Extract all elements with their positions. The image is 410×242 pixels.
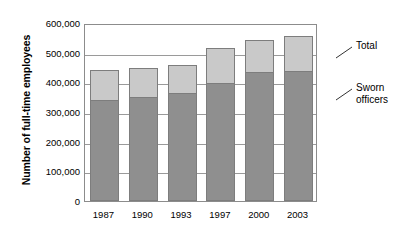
bar-segment-sworn-officers[interactable] <box>206 83 235 201</box>
y-tick-label: 600,000 <box>28 19 80 29</box>
gridline <box>85 55 316 56</box>
bar-segment-total[interactable] <box>245 40 274 73</box>
bar-group[interactable] <box>206 23 235 201</box>
y-tick-label: 500,000 <box>28 49 80 59</box>
bar-segment-total[interactable] <box>284 36 313 72</box>
x-tick-label: 1993 <box>159 210 203 220</box>
gridline <box>85 144 316 145</box>
y-tick-label: 300,000 <box>28 108 80 118</box>
y-tick-label: 200,000 <box>28 138 80 148</box>
x-tick-label: 1987 <box>81 210 125 220</box>
bar-segment-sworn-officers[interactable] <box>168 93 197 201</box>
gridline <box>85 84 316 85</box>
bar-segment-total[interactable] <box>168 65 197 94</box>
bar-segment-sworn-officers[interactable] <box>284 71 313 201</box>
bar-segment-sworn-officers[interactable] <box>245 72 274 201</box>
bar-chart: Number of full-time employees 0100,00020… <box>0 0 410 242</box>
y-tick-label: 400,000 <box>28 78 80 88</box>
bar-group[interactable] <box>168 23 197 201</box>
bar-group[interactable] <box>90 23 119 201</box>
plot-area <box>84 24 317 202</box>
bar-segment-sworn-officers[interactable] <box>129 97 158 201</box>
bar-segment-total[interactable] <box>90 70 119 101</box>
bar-group[interactable] <box>129 23 158 201</box>
callout-label-total: Total <box>356 40 377 52</box>
bar-group[interactable] <box>284 23 313 201</box>
y-tick-label: 100,000 <box>28 167 80 177</box>
x-tick-label: 1990 <box>120 210 164 220</box>
bar-segment-sworn-officers[interactable] <box>90 100 119 201</box>
x-tick-label: 1997 <box>198 210 242 220</box>
gridline <box>85 114 316 115</box>
gridline <box>85 173 316 174</box>
callout-label-sworn-officers: Sworn officers <box>356 82 388 105</box>
bar-group[interactable] <box>245 23 274 201</box>
y-tick-label: 0 <box>28 197 80 207</box>
y-axis-tick-labels: 0100,000200,000300,000400,000500,000600,… <box>25 0 80 242</box>
x-tick-label: 2003 <box>276 210 320 220</box>
bar-segment-total[interactable] <box>206 48 235 84</box>
x-tick-label: 2000 <box>237 210 281 220</box>
bar-segment-total[interactable] <box>129 68 158 98</box>
